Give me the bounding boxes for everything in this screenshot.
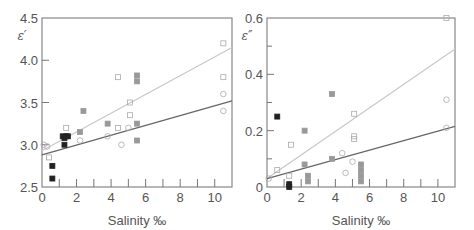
data-point: [329, 92, 334, 97]
data-point: [128, 113, 133, 118]
x-tick-label: 8: [400, 190, 407, 205]
data-point: [105, 121, 110, 126]
data-point: [50, 163, 55, 168]
x-tick-label: 8: [177, 190, 184, 205]
x-tick-label: 10: [431, 190, 445, 205]
chart-panel-left: 02468102.53.03.54.04.5ε′Salinity ‰: [17, 11, 232, 228]
y-tick-label: 4.0: [20, 53, 38, 68]
data-point: [221, 108, 227, 114]
data-point: [339, 150, 345, 156]
data-point: [81, 108, 86, 113]
data-point: [135, 121, 140, 126]
data-point: [444, 97, 450, 103]
data-point: [119, 142, 125, 148]
data-point: [116, 75, 121, 80]
y-tick-label: 0.4: [245, 67, 263, 82]
y-tick-label: 0: [256, 180, 263, 195]
data-point: [352, 111, 357, 116]
x-tick-label: 4: [332, 190, 339, 205]
data-point: [287, 173, 292, 178]
data-point: [135, 138, 140, 143]
data-point: [359, 173, 364, 178]
y-tick-label: 3.0: [20, 138, 38, 153]
data-point: [306, 173, 311, 178]
y-tick-label: 3.5: [20, 96, 38, 111]
data-point: [221, 91, 227, 97]
x-tick-label: 0: [38, 190, 45, 205]
x-tick-label: 10: [207, 190, 221, 205]
y-tick-label: 4.5: [20, 11, 38, 26]
data-point: [64, 125, 69, 130]
y-tick-label: 2.5: [20, 180, 38, 195]
y-tick-label: 0.6: [245, 11, 263, 26]
y-axis-label: ε″: [242, 29, 253, 43]
x-tick-label: 0: [263, 190, 270, 205]
y-axis-label: ε′: [17, 29, 26, 43]
x-tick-label: 6: [366, 190, 373, 205]
data-point: [65, 134, 70, 139]
data-point: [287, 185, 292, 190]
data-point: [275, 114, 280, 119]
data-point: [46, 155, 51, 160]
data-point: [302, 162, 307, 167]
x-tick-label: 6: [142, 190, 149, 205]
data-point: [116, 125, 121, 130]
x-tick-label: 2: [73, 190, 80, 205]
chart-panel-right: 024681000.20.40.6ε″Salinity ‰: [242, 11, 455, 228]
data-point: [135, 79, 140, 84]
data-point: [359, 162, 364, 167]
data-point: [359, 179, 364, 184]
data-point: [288, 142, 293, 147]
data-point: [306, 179, 311, 184]
x-axis-label: Salinity ‰: [108, 213, 167, 228]
y-tick-label: 0.2: [245, 124, 263, 139]
data-point: [329, 156, 334, 161]
chart-canvas: 02468102.53.03.54.04.5ε′Salinity ‰024681…: [0, 0, 474, 230]
x-tick-label: 2: [298, 190, 305, 205]
fit-line-lower-dark: [42, 101, 232, 155]
data-point: [350, 159, 356, 165]
data-point: [62, 142, 67, 147]
data-point: [302, 128, 307, 133]
data-point: [221, 75, 226, 80]
data-point: [359, 168, 364, 173]
x-axis-label: Salinity ‰: [332, 213, 391, 228]
fit-line-upper-light: [267, 49, 455, 179]
data-point: [77, 138, 83, 144]
data-point: [135, 73, 140, 78]
data-point: [343, 170, 349, 176]
plot-frame: [42, 18, 232, 187]
x-tick-label: 4: [107, 190, 114, 205]
data-point: [221, 41, 226, 46]
data-point: [78, 130, 83, 135]
data-point: [50, 176, 55, 181]
